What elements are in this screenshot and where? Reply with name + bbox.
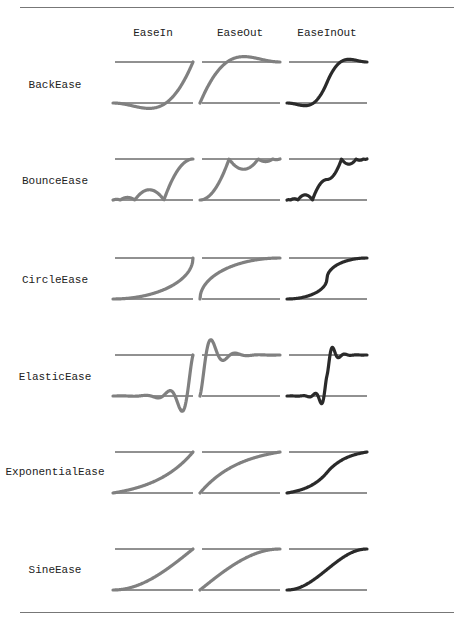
easing-curve	[113, 452, 193, 493]
plot-bounceease-easeout	[200, 159, 280, 200]
plot-exponentialease-easeout	[200, 452, 280, 493]
plot-elasticease-easeout	[200, 340, 280, 396]
plot-backease-easeout	[200, 57, 280, 103]
easing-curve	[200, 549, 280, 590]
plot-bounceease-easeinout	[287, 159, 367, 200]
easing-curve	[287, 549, 367, 590]
plot-circleease-easein	[113, 258, 193, 299]
plot-circleease-easeout	[200, 258, 280, 299]
easing-curve	[113, 62, 193, 108]
plot-exponentialease-easeinout	[287, 452, 367, 493]
easing-curve	[287, 258, 367, 299]
easing-curve	[287, 347, 367, 403]
easing-curve	[200, 452, 280, 493]
easing-curve	[200, 258, 280, 299]
easing-curve	[113, 258, 193, 299]
plot-exponentialease-easein	[113, 452, 193, 493]
easing-plots	[0, 0, 454, 633]
easing-curve	[113, 549, 193, 590]
easing-curve	[200, 57, 280, 103]
bottom-rule	[20, 612, 454, 613]
plot-backease-easein	[113, 62, 193, 108]
easing-curve	[287, 452, 367, 493]
plot-elasticease-easeinout	[287, 347, 367, 403]
plot-bounceease-easein	[113, 159, 193, 200]
easing-curve	[200, 340, 280, 396]
plot-sineease-easein	[113, 549, 193, 590]
easing-curve	[113, 355, 193, 411]
easing-curve	[113, 159, 193, 200]
plot-elasticease-easein	[113, 355, 193, 411]
plot-backease-easeinout	[287, 59, 367, 105]
plot-sineease-easeout	[200, 549, 280, 590]
plot-sineease-easeinout	[287, 549, 367, 590]
easing-curve	[287, 59, 367, 105]
plot-circleease-easeinout	[287, 258, 367, 299]
easing-curve	[200, 159, 280, 200]
easing-curve	[287, 159, 367, 200]
